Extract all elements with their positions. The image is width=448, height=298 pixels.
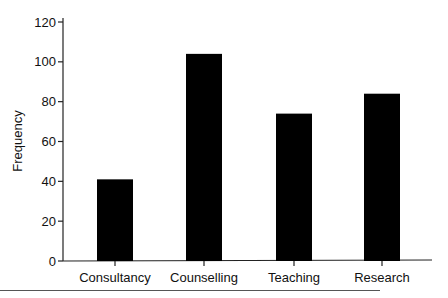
- bottom-divider: [0, 290, 380, 291]
- bar-counselling: [186, 54, 222, 261]
- y-axis-label: Frequency: [10, 110, 25, 172]
- bar-teaching: [276, 114, 312, 261]
- bar-chart: 020406080100120 ConsultancyCounsellingTe…: [0, 0, 448, 298]
- bars: [97, 54, 400, 261]
- y-tick-label: 80: [42, 94, 56, 109]
- bar-consultancy: [97, 179, 133, 261]
- bar-research: [364, 94, 400, 261]
- y-tick-label: 20: [42, 214, 56, 229]
- y-tick-label: 0: [49, 254, 56, 269]
- x-tick-label: Research: [354, 270, 410, 285]
- x-tick-label: Counselling: [170, 270, 238, 285]
- y-tick-label: 120: [34, 15, 56, 30]
- x-axis: ConsultancyCounsellingTeachingResearch: [63, 260, 432, 285]
- y-tick-label: 100: [34, 54, 56, 69]
- y-axis: 020406080100120: [34, 15, 63, 269]
- y-tick-label: 40: [42, 174, 56, 189]
- x-tick-label: Consultancy: [79, 270, 151, 285]
- y-tick-label: 60: [42, 134, 56, 149]
- x-tick-label: Teaching: [268, 270, 320, 285]
